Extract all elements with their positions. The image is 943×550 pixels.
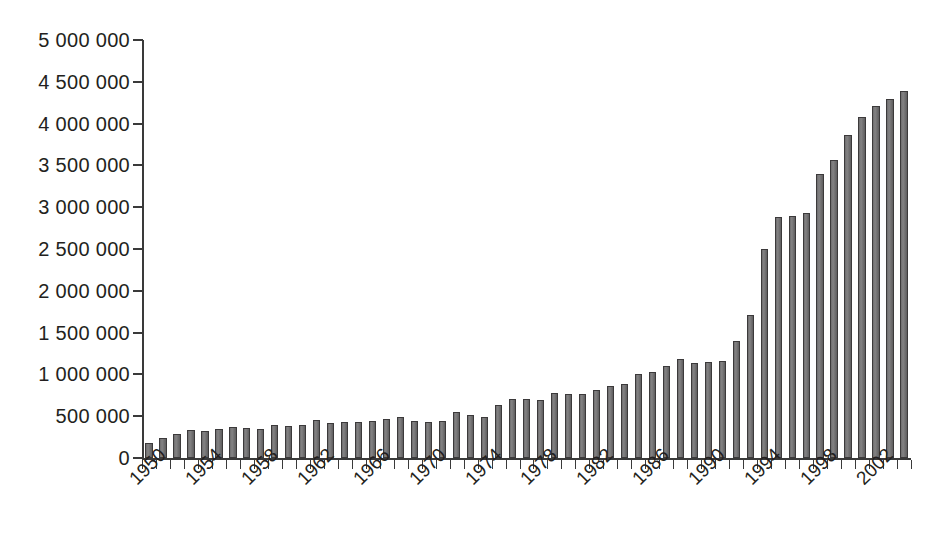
bar [523,399,530,458]
y-axis-tick-label: 1 500 000 [2,321,130,344]
x-axis-tick-mark [575,460,576,469]
bar [551,393,558,458]
bar [243,428,250,458]
bar [565,394,572,458]
y-axis-tick-mark [133,164,143,166]
x-axis-tick-mark [282,460,283,469]
x-axis-tick-mark [785,460,786,469]
bar [579,394,586,458]
bar [886,99,893,458]
bar [761,249,768,458]
bar [607,386,614,458]
bar [397,417,404,458]
bar [467,415,474,458]
y-axis-tick-mark [133,332,143,334]
x-axis-tick-mark [170,460,171,469]
bar [299,425,306,458]
y-axis-labels: 5 000 0004 500 0004 000 0003 500 0003 00… [0,0,130,550]
bar [355,422,362,458]
bar [830,160,837,458]
bar [453,412,460,458]
y-axis-tick-label: 2 500 000 [2,238,130,261]
x-axis-tick-mark [897,460,898,469]
x-axis-tick-mark [617,460,618,469]
bar [775,217,782,458]
bar [677,359,684,458]
x-axis-tick-mark [394,460,395,469]
bar [705,362,712,458]
bar [900,91,907,458]
x-axis-tick-mark [338,460,339,469]
bar [649,372,656,458]
bar [509,399,516,458]
bar [341,422,348,458]
x-axis-tick-mark [729,460,730,469]
y-axis-tick-mark [133,290,143,292]
x-axis-tick-mark [911,460,912,469]
bar-chart: 5 000 0004 500 0004 000 0003 500 0003 00… [0,0,943,550]
x-axis-tick-mark [450,460,451,469]
y-axis-tick-mark [133,206,143,208]
bar [803,213,810,458]
x-axis-tick-mark [855,460,856,469]
y-axis-tick-label: 3 000 000 [2,196,130,219]
y-axis-tick-mark [133,123,143,125]
y-axis-tick-label: 0 [2,447,130,470]
bar [789,216,796,458]
bar [733,341,740,458]
bar [621,384,628,458]
y-axis-tick-label: 4 000 000 [2,112,130,135]
bar [719,361,726,458]
bar [663,366,670,458]
y-axis-tick-label: 2 000 000 [2,279,130,302]
bar [285,426,292,458]
bar [747,315,754,458]
y-axis-tick-mark [133,373,143,375]
bar [872,106,879,458]
x-axis-tick-mark [240,460,241,469]
x-axis-tick-mark [184,460,185,469]
bar [187,430,194,458]
y-axis-tick-label: 3 500 000 [2,154,130,177]
bar [411,421,418,458]
bar [816,174,823,458]
plot-area [142,40,911,458]
y-axis-tick-mark [133,81,143,83]
y-axis-tick-label: 4 500 000 [2,70,130,93]
x-axis-tick-mark [226,460,227,469]
y-axis-tick-label: 500 000 [2,405,130,428]
x-axis-tick-mark [841,460,842,469]
x-axis-tick-mark [408,460,409,469]
x-axis-tick-mark [352,460,353,469]
x-axis-tick-mark [464,460,465,469]
x-axis-tick-mark [799,460,800,469]
bar [173,434,180,458]
y-axis-tick-mark [133,39,143,41]
x-axis-tick-mark [561,460,562,469]
bar [635,374,642,458]
y-axis-tick-label: 5 000 000 [2,29,130,52]
x-axis-tick-mark [520,460,521,469]
x-axis-tick-mark [687,460,688,469]
x-axis-tick-mark [673,460,674,469]
bar [844,135,851,458]
x-axis-tick-mark [743,460,744,469]
y-axis-tick-mark [133,248,143,250]
bar [691,363,698,458]
y-axis-tick-label: 1 000 000 [2,363,130,386]
x-axis-tick-mark [506,460,507,469]
bar [858,117,865,458]
y-axis-tick-mark [133,415,143,417]
x-axis-tick-mark [296,460,297,469]
x-axis-tick-mark [631,460,632,469]
bar [229,427,236,458]
